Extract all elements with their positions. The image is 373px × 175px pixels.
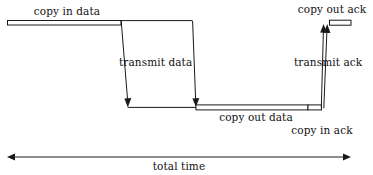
label-copy-in-data: copy in data xyxy=(34,6,100,17)
label-copy-in-ack: copy in ack xyxy=(291,125,352,136)
label-transmit-data: transmit data xyxy=(119,57,192,68)
copy-out-data-bar xyxy=(196,105,308,110)
copy-in-data-bar xyxy=(8,21,122,26)
transmit-ack-right-line xyxy=(324,31,327,108)
copy-out-ack-bar xyxy=(330,20,352,25)
total-time-left-arrowhead xyxy=(7,154,15,161)
transmit-data-right-line xyxy=(193,21,196,99)
copy-in-ack-bar xyxy=(308,105,322,110)
diagram-canvas xyxy=(0,0,373,175)
label-transmit-ack: transmit ack xyxy=(294,57,362,68)
timing-diagram: copy in data transmit data copy out data… xyxy=(0,0,373,175)
label-copy-out-data: copy out data xyxy=(219,112,293,123)
total-time-right-arrowhead xyxy=(343,154,351,161)
label-total-time: total time xyxy=(153,161,205,172)
label-copy-out-ack: copy out ack xyxy=(298,4,367,15)
transmit-data-left-arrowhead xyxy=(124,98,131,108)
transmit-ack-left-line xyxy=(321,31,323,108)
